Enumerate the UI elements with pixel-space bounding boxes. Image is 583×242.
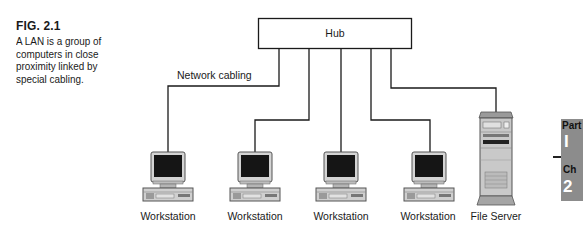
chapter-label: Ch bbox=[563, 164, 576, 175]
part-number: I bbox=[564, 132, 569, 152]
chapter-number: 2 bbox=[563, 177, 572, 197]
part-label: Part bbox=[562, 120, 581, 131]
workstation-icon bbox=[143, 152, 193, 201]
node-label: Workstation bbox=[140, 210, 195, 222]
cable-4 bbox=[371, 48, 430, 152]
workstation-icon bbox=[404, 152, 454, 201]
node-label: Workstation bbox=[313, 210, 368, 222]
file-server-icon bbox=[477, 112, 515, 205]
workstation-icon bbox=[230, 152, 280, 201]
workstation-icon bbox=[316, 152, 366, 201]
node-label: Workstation bbox=[400, 210, 455, 222]
network-cables bbox=[168, 48, 496, 152]
network-cabling-label: Network cabling bbox=[177, 69, 252, 81]
lan-diagram: Hub Network cabling Workstation Workstat… bbox=[0, 0, 583, 242]
cable-1 bbox=[168, 48, 279, 152]
cable-5 bbox=[391, 48, 496, 112]
node-label: File Server bbox=[471, 210, 522, 222]
hub-label: Hub bbox=[325, 27, 344, 39]
node-label: Workstation bbox=[227, 210, 282, 222]
cable-2 bbox=[255, 48, 309, 152]
part-chapter-tab: Part I Ch 2 bbox=[561, 119, 583, 201]
